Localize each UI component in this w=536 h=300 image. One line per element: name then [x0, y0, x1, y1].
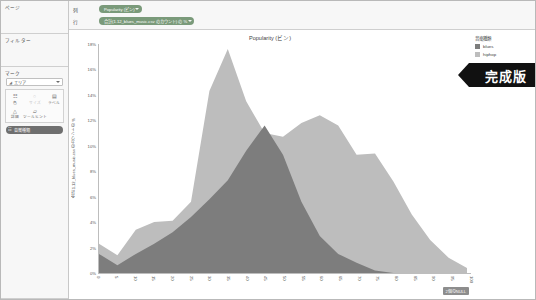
x-axis-tick-label: 15 — [151, 276, 156, 281]
chart-title: Popularity (ビン) — [69, 30, 471, 44]
area-chart-svg — [99, 44, 467, 273]
x-axis-tick-label: 55 — [301, 276, 306, 281]
plot-wrapper: 合計 1.12_blues_music.csv のカウント の % 0%2%4%… — [69, 44, 471, 273]
x-axis-tick-label: 0 — [96, 276, 101, 278]
legend-item-label: hiphop — [483, 52, 496, 57]
y-axis-tick-label: 10% — [88, 143, 96, 148]
marks-button-size[interactable]: ○ サイズ — [23, 92, 47, 106]
color-icon: ☷ — [13, 93, 17, 99]
marks-grid-spacer — [47, 107, 63, 121]
marks-button-label[interactable]: ▤ ラベル — [47, 92, 63, 106]
y-axis-tick-label: 2% — [90, 245, 96, 250]
x-axis-tick-label: 50 — [282, 276, 287, 281]
x-axis: 2個のNULL 05101520253035404550556065707580… — [69, 273, 471, 299]
x-axis-tick-label: 10 — [133, 276, 138, 281]
rows-pill-label: 合計(1.12_blues_music.csv のカウント) の % — [104, 18, 187, 24]
marks-button-tooltip-label: ツールヒント — [23, 114, 47, 119]
legend-swatch-icon — [475, 52, 480, 57]
y-axis-tick-label: 6% — [90, 194, 96, 199]
y-axis-tick-label: 8% — [90, 169, 96, 174]
marks-panel[interactable]: マーク ◢ エリア ☷ 色 ○ サイズ ▤ ラベル — [1, 67, 68, 299]
tableau-worksheet-window: ページ フィルター マーク ◢ エリア ☷ 色 ○ サイズ — [0, 0, 536, 300]
legend-item-label: blues — [483, 44, 494, 49]
filters-panel-title: フィルター — [5, 37, 64, 43]
x-axis-tick-label: 90 — [431, 276, 436, 281]
left-sidebar: ページ フィルター マーク ◢ エリア ☷ 色 ○ サイズ — [1, 1, 69, 299]
x-axis-tick-label: 40 — [245, 276, 250, 281]
marks-button-color[interactable]: ☷ 色 — [7, 92, 23, 106]
marks-button-color-label: 色 — [13, 100, 17, 105]
legend-title: 音楽種類 — [475, 35, 531, 41]
x-axis-tick-label: 85 — [413, 276, 418, 281]
rows-shelf-drop[interactable]: 合計(1.12_blues_music.csv のカウント) の % — [99, 17, 531, 25]
rows-shelf-label: 行 — [73, 18, 99, 25]
x-axis-ticks: 2個のNULL 05101520253035404550556065707580… — [98, 273, 471, 299]
chevron-down-icon — [56, 81, 60, 83]
y-axis-tick-label: 0% — [90, 271, 96, 276]
marks-button-detail-label: 詳細 — [11, 114, 19, 119]
chart-area: Popularity (ビン) 合計 1.12_blues_music.csv … — [69, 30, 471, 299]
y-axis-ticks: 0%2%4%6%8%10%12%14%16%18% — [78, 44, 98, 273]
marks-type-value: エリア — [14, 79, 26, 85]
marks-button-label-label: ラベル — [48, 100, 60, 105]
legend-item[interactable]: hiphop — [475, 52, 531, 57]
columns-shelf[interactable]: 列 Popularity (ビン) — [69, 3, 535, 15]
legend-swatch-icon — [475, 44, 480, 49]
worksheet-workspace: 列 Popularity (ビン) 行 合計(1.12_blues_music.… — [69, 1, 535, 299]
filters-panel[interactable]: フィルター — [1, 34, 68, 67]
x-axis-tick-label: 75 — [375, 276, 380, 281]
x-axis-tick-label: 60 — [319, 276, 324, 281]
completed-version-label: 完成版 — [485, 66, 527, 85]
y-axis-tick-label: 18% — [88, 42, 96, 47]
pages-panel-title: ページ — [5, 4, 64, 10]
x-axis-tick-label: 95 — [450, 276, 455, 281]
marks-color-pill-label: 音楽種類 — [14, 127, 30, 133]
x-axis-left-pad — [69, 273, 98, 299]
legend-item[interactable]: blues — [475, 44, 531, 49]
y-axis-tick-label: 12% — [88, 118, 96, 123]
null-indicator-badge[interactable]: 2個のNULL — [443, 287, 469, 295]
x-axis-tick-label: 25 — [189, 276, 194, 281]
columns-shelf-label: 列 — [73, 6, 99, 13]
area-mark-icon: ◢ — [9, 80, 12, 85]
columns-pill-label: Popularity (ビン) — [104, 6, 135, 12]
columns-shelf-drop[interactable]: Popularity (ビン) — [99, 5, 531, 13]
x-axis-tick-label: 45 — [263, 276, 268, 281]
marks-button-tooltip[interactable]: ▱ ツールヒント — [23, 107, 47, 121]
x-axis-tick-label: 20 — [170, 276, 175, 281]
x-axis-tick-label: 35 — [226, 276, 231, 281]
tooltip-icon: ▱ — [33, 108, 37, 114]
label-icon: ▤ — [52, 93, 57, 99]
y-axis-tick-label: 14% — [88, 92, 96, 97]
y-axis-tick-label: 4% — [90, 220, 96, 225]
x-axis-tick-label: 100 — [469, 276, 474, 283]
dimension-pill-icon: ☷ — [8, 127, 12, 132]
rows-shelf[interactable]: 行 合計(1.12_blues_music.csv のカウント) の % — [69, 15, 535, 27]
x-axis-tick-label: 65 — [338, 276, 343, 281]
legend-items: blueshiphop — [475, 44, 531, 57]
chevron-down-icon — [188, 20, 192, 22]
marks-button-size-label: サイズ — [29, 100, 41, 105]
pages-panel[interactable]: ページ — [1, 1, 68, 34]
marks-color-pill-music-type[interactable]: ☷ 音楽種類 — [6, 126, 63, 134]
y-axis-tick-label: 16% — [88, 67, 96, 72]
marks-buttons-grid: ☷ 色 ○ サイズ ▤ ラベル △ 詳細 ▱ ツールヒント — [5, 89, 64, 123]
completed-version-ribbon: 完成版 — [469, 63, 535, 87]
marks-button-detail[interactable]: △ 詳細 — [7, 107, 23, 121]
shelves-container: 列 Popularity (ビン) 行 合計(1.12_blues_music.… — [69, 1, 535, 30]
x-axis-tick-label: 5 — [114, 276, 119, 278]
plot-region[interactable] — [98, 44, 467, 273]
chevron-down-icon — [135, 8, 139, 10]
detail-icon: △ — [13, 108, 17, 114]
rows-pill-percent-of-total[interactable]: 合計(1.12_blues_music.csv のカウント) の % — [99, 17, 194, 25]
y-axis-title-text: 合計 1.12_blues_music.csv のカウント の % — [71, 118, 77, 198]
marks-panel-title: マーク — [5, 70, 64, 76]
x-axis-tick-label: 30 — [207, 276, 212, 281]
x-axis-tick-label: 80 — [394, 276, 399, 281]
columns-pill-popularity-bin[interactable]: Popularity (ビン) — [99, 5, 142, 13]
x-axis-tick-label: 70 — [357, 276, 362, 281]
y-axis-title: 合計 1.12_blues_music.csv のカウント の % — [69, 44, 78, 273]
marks-type-select[interactable]: ◢ エリア — [6, 78, 63, 86]
size-icon: ○ — [33, 93, 36, 99]
